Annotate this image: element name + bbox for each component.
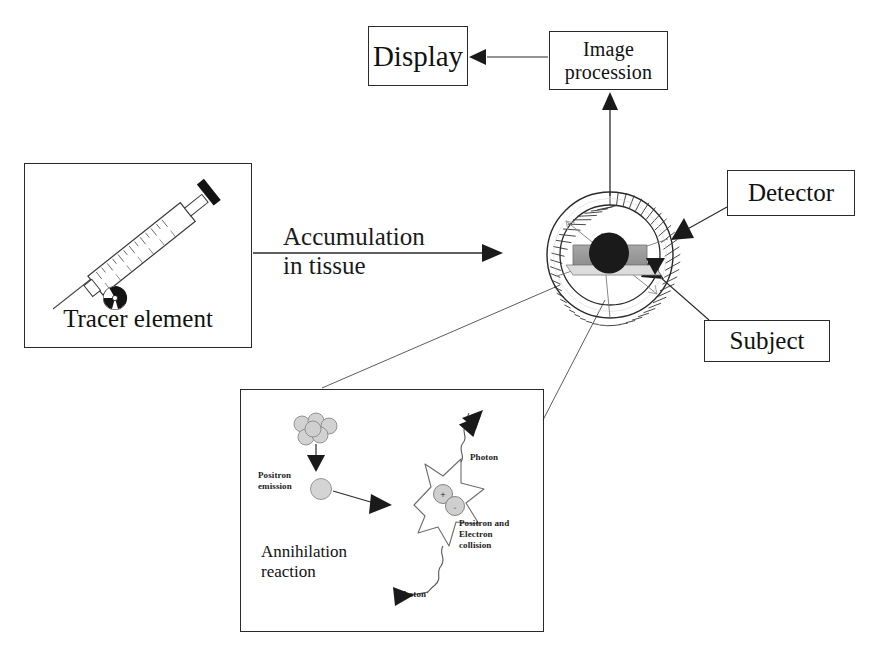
box-annihilation-panel[interactable] [240, 389, 544, 632]
image-procession-line1: Image [583, 38, 634, 60]
annihilation-reaction-label: Annihilation reaction [261, 542, 347, 583]
arrow-to-image-procession [602, 92, 618, 196]
collision-line3: collision [459, 540, 491, 550]
box-image-procession[interactable]: Image procession [549, 31, 668, 90]
photon-label-top: Photon [470, 452, 498, 463]
accumulation-line1: Accumulation [283, 223, 425, 250]
accumulation-line2: in tissue [283, 251, 483, 280]
positron-emission-label: Positron emission [258, 470, 318, 492]
accumulation-label: Accumulation in tissue [283, 222, 483, 280]
photon-label-bottom: Photon [398, 589, 426, 600]
collision-line1: Positron and [459, 518, 509, 528]
image-procession-line2: procession [565, 61, 653, 83]
positron-emission-line2: emission [258, 481, 292, 491]
subject-label: Subject [730, 327, 805, 355]
diagram-canvas: + - Display Image procession Detector Su… [0, 0, 875, 648]
image-procession-label: Image procession [565, 38, 653, 83]
patient-head-icon [589, 233, 629, 274]
detector-label: Detector [748, 179, 834, 207]
box-subject[interactable]: Subject [704, 320, 830, 362]
box-display[interactable]: Display [368, 26, 468, 86]
box-detector[interactable]: Detector [727, 170, 855, 216]
connector-detector [671, 207, 727, 240]
display-label: Display [373, 40, 463, 72]
annihilation-line2: reaction [261, 562, 316, 581]
annihilation-line1: Annihilation [261, 542, 347, 561]
tracer-element-caption: Tracer element [24, 305, 252, 333]
positron-emission-line1: Positron [258, 470, 291, 480]
positron-electron-collision-label: Positron and Electron collision [459, 518, 529, 551]
collision-line2: Electron [459, 529, 493, 539]
arrow-to-display [469, 49, 548, 65]
